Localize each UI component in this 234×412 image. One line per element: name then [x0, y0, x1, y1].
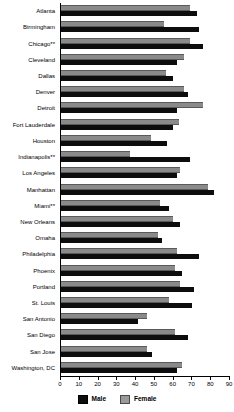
x-tick — [135, 376, 136, 380]
category-label: San Antonio — [0, 311, 58, 327]
category-label: Portland — [0, 279, 58, 295]
category-label: Manhattan — [0, 181, 58, 197]
category-label: Fort Lauderdale — [0, 117, 58, 133]
bar-group — [61, 360, 229, 376]
legend-item-female: Female — [120, 395, 156, 404]
bar-male — [61, 157, 190, 162]
x-tick-label: 10 — [75, 381, 82, 387]
x-tick-label: 70 — [188, 381, 195, 387]
bar-male — [61, 319, 138, 324]
x-axis-tick-labels: 0102030405060708090 — [60, 381, 229, 391]
category-label: San Diego — [0, 327, 58, 343]
category-label: Omaha — [0, 230, 58, 246]
bar-group — [61, 246, 229, 262]
bar-group — [61, 19, 229, 35]
bar-male — [61, 368, 177, 373]
x-tick — [79, 376, 80, 380]
x-tick-label: 80 — [207, 381, 214, 387]
x-tick — [191, 376, 192, 380]
bar-male — [61, 335, 188, 340]
bar-group — [61, 279, 229, 295]
x-tick — [229, 376, 230, 380]
category-label: Indianapolis** — [0, 149, 58, 165]
category-label: Denver — [0, 84, 58, 100]
x-tick — [154, 376, 155, 380]
legend-item-male: Male — [78, 395, 106, 404]
bar-group — [61, 35, 229, 51]
bar-group — [61, 149, 229, 165]
category-label: Chicago** — [0, 35, 58, 51]
category-label: Philadelphia — [0, 246, 58, 262]
category-label: Dallas — [0, 68, 58, 84]
bar-male — [61, 125, 173, 130]
bar-group — [61, 165, 229, 181]
bar-male — [61, 238, 162, 243]
bar-group — [61, 3, 229, 19]
bar-group — [61, 230, 229, 246]
bar-group — [61, 344, 229, 360]
category-label: San Jose — [0, 344, 58, 360]
bar-male — [61, 173, 177, 178]
category-label: Atlanta — [0, 3, 58, 19]
x-tick-label: 40 — [132, 381, 139, 387]
category-label: Los Angeles — [0, 165, 58, 181]
chart-legend: Male Female — [0, 395, 234, 404]
bar-male — [61, 76, 173, 81]
bar-male — [61, 206, 169, 211]
x-tick — [210, 376, 211, 380]
x-tick-label: 50 — [151, 381, 158, 387]
bar-male — [61, 303, 192, 308]
bar-chart: AtlantaBirminghamChicago**ClevelandDalla… — [0, 0, 234, 412]
x-tick — [60, 376, 61, 380]
category-label: St. Louis — [0, 295, 58, 311]
bar-male — [61, 222, 180, 227]
x-tick-label: 30 — [113, 381, 120, 387]
legend-label-male: Male — [92, 396, 106, 403]
bar-group — [61, 311, 229, 327]
category-label: Washington, DC — [0, 360, 58, 376]
bar-group — [61, 181, 229, 197]
legend-swatch-female-icon — [120, 395, 130, 404]
category-label: New Orleans — [0, 214, 58, 230]
bar-group — [61, 117, 229, 133]
bar-male — [61, 11, 197, 16]
bar-group — [61, 68, 229, 84]
bar-male — [61, 44, 203, 49]
bar-group — [61, 52, 229, 68]
x-axis-ticks — [60, 376, 229, 380]
category-label: Miami** — [0, 198, 58, 214]
bar-male — [61, 287, 194, 292]
x-tick — [116, 376, 117, 380]
category-label: Houston — [0, 133, 58, 149]
category-label: Phoenix — [0, 263, 58, 279]
bar-group — [61, 198, 229, 214]
x-tick-label: 0 — [58, 381, 61, 387]
legend-swatch-male-icon — [78, 395, 88, 404]
bar-group — [61, 263, 229, 279]
bar-group — [61, 214, 229, 230]
bar-male — [61, 352, 152, 357]
category-label: Detroit — [0, 100, 58, 116]
x-tick-label: 60 — [169, 381, 176, 387]
bar-group — [61, 133, 229, 149]
bar-male — [61, 141, 167, 146]
bar-rows — [61, 3, 229, 376]
plot-area — [60, 3, 229, 376]
bar-group — [61, 84, 229, 100]
bar-male — [61, 92, 188, 97]
bar-male — [61, 27, 199, 32]
x-tick — [98, 376, 99, 380]
bar-group — [61, 100, 229, 116]
x-tick-label: 90 — [226, 381, 233, 387]
bar-group — [61, 327, 229, 343]
x-tick — [173, 376, 174, 380]
x-tick-label: 20 — [94, 381, 101, 387]
category-axis-labels: AtlantaBirminghamChicago**ClevelandDalla… — [0, 3, 58, 376]
bar-male — [61, 190, 214, 195]
legend-label-female: Female — [134, 396, 156, 403]
category-label: Birmingham — [0, 19, 58, 35]
bar-group — [61, 295, 229, 311]
bar-male — [61, 108, 177, 113]
category-label: Cleveland — [0, 52, 58, 68]
bar-male — [61, 271, 182, 276]
